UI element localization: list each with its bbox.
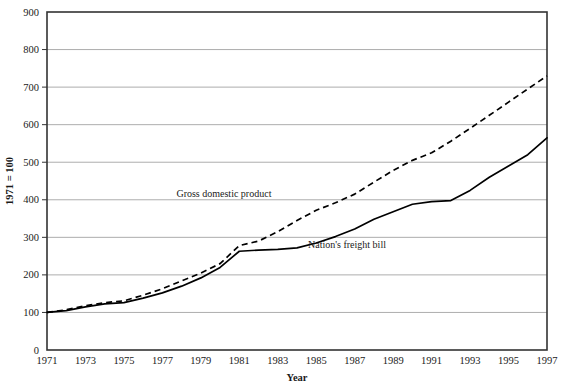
x-tick-label: 1989 bbox=[383, 355, 404, 366]
series-line-2 bbox=[47, 138, 547, 313]
series-line-1 bbox=[47, 76, 547, 313]
y-tick-label: 300 bbox=[23, 232, 39, 243]
y-tick-label: 400 bbox=[23, 194, 39, 205]
y-tick-label: 900 bbox=[23, 7, 39, 18]
y-tick-label: 500 bbox=[23, 157, 39, 168]
x-tick-label: 1993 bbox=[460, 355, 481, 366]
y-tick-label: 800 bbox=[23, 44, 39, 55]
x-tick-label: 1977 bbox=[152, 355, 173, 366]
y-axis-title: 1971 = 100 bbox=[4, 157, 15, 205]
y-tick-label: 700 bbox=[23, 82, 39, 93]
y-tick-label: 600 bbox=[23, 119, 39, 130]
x-tick-label: 1975 bbox=[113, 355, 134, 366]
x-tick-label: 1985 bbox=[306, 355, 327, 366]
y-tick-label: 100 bbox=[23, 307, 39, 318]
x-tick-label: 1991 bbox=[421, 355, 442, 366]
x-tick-label: 1981 bbox=[229, 355, 250, 366]
x-axis-tick-labels: 1971197319751977197919811983198519871989… bbox=[37, 355, 558, 366]
x-tick-label: 1983 bbox=[267, 355, 288, 366]
x-tick-label: 1973 bbox=[75, 355, 96, 366]
plot-frame bbox=[47, 12, 547, 350]
x-tick-label: 1987 bbox=[344, 355, 365, 366]
series-label-2: Nation's freight bill bbox=[308, 239, 386, 250]
chart-figure: 0100200300400500600700800900 19711973197… bbox=[0, 0, 566, 387]
y-tick-label: 200 bbox=[23, 269, 39, 280]
y-axis-tick-labels: 0100200300400500600700800900 bbox=[23, 7, 47, 356]
x-tick-label: 1995 bbox=[498, 355, 519, 366]
series-annotation-labels: Gross domestic productNation's freight b… bbox=[176, 188, 386, 250]
series-label-1: Gross domestic product bbox=[176, 188, 271, 199]
x-tick-label: 1997 bbox=[537, 355, 558, 366]
gridlines-group bbox=[47, 50, 547, 313]
x-tick-label: 1979 bbox=[190, 355, 211, 366]
data-series-group bbox=[47, 76, 547, 313]
y-tick-label: 0 bbox=[34, 345, 39, 356]
x-axis-title: Year bbox=[287, 372, 308, 383]
x-tick-label: 1971 bbox=[37, 355, 58, 366]
